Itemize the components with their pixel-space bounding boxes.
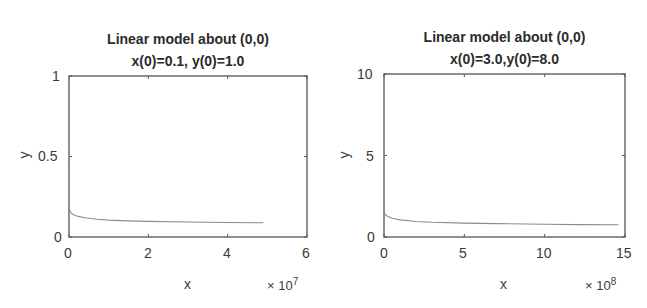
trajectory-line — [69, 76, 263, 223]
axes-frame — [384, 74, 625, 237]
axes-1 — [69, 76, 307, 237]
plot-canvas — [0, 0, 647, 308]
axes-frame — [69, 76, 307, 237]
figure: Linear model about (0,0) x(0)=0.1, y(0)=… — [0, 0, 647, 308]
axes-2 — [384, 74, 625, 237]
trajectory-line — [384, 107, 619, 225]
